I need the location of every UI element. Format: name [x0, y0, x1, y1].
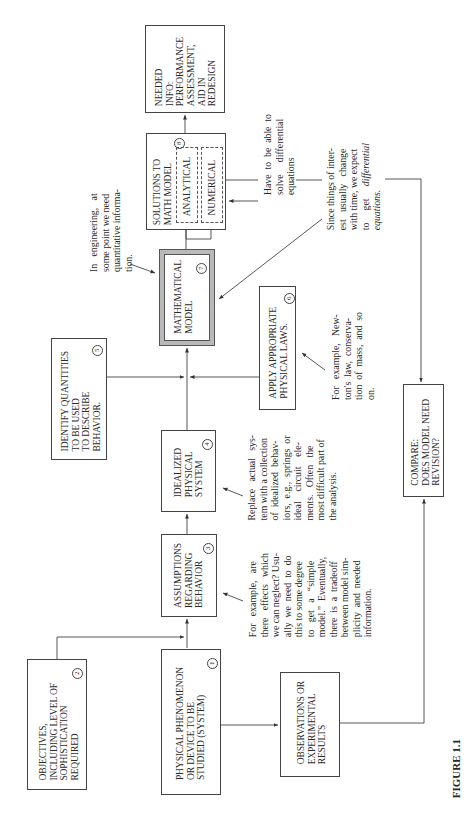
analytical-label: ANALYTICAL: [182, 157, 193, 216]
assumptions-box: ASSUMPTIONS REGARDING BEHAVIOR 3: [161, 534, 217, 617]
solutions-box: SOLUTIONS TO MATH MODEL 8 ANALYTICAL NUM…: [146, 133, 226, 230]
step-number-2: 2: [72, 668, 83, 679]
physical-laws-note: For example, New- ton's law, conserva- t…: [330, 312, 376, 400]
observations-box: OBSERVATIONS OR EXPERIMENTAL RESULTS: [280, 672, 340, 777]
assumptions-label: ASSUMPTIONS REGARDING BEHAVIOR: [173, 543, 205, 608]
change-with-time-note: Since things of inter- est usually chang…: [325, 143, 383, 230]
needed-info-box: NEEDED INFO: PERFORMANCE ASSESSMENT, AID…: [145, 25, 225, 113]
compare-label: COMPARE: DOES MODEL NEED REVISION?: [410, 399, 442, 486]
engineering-note: In engineering, at some point we need qu…: [88, 189, 134, 272]
solutions-label: SOLUTIONS TO MATH MODEL: [152, 159, 173, 225]
idealized-system-label: IDEALIZED PHYSICAL SYSTEM: [173, 448, 205, 497]
step-number-1: 1: [207, 658, 218, 669]
change-note-italic-differential: differential: [360, 143, 371, 186]
needed-info-label: NEEDED INFO: PERFORMANCE ASSESSMENT, AID…: [154, 37, 218, 106]
differential-equations-note: Have to be able to solve differential eq…: [262, 114, 297, 195]
physical-phenomenon-box: PHYSICAL PHENOMENON OR DEVICE TO BE STUD…: [161, 649, 221, 795]
physical-laws-box: APPLY APPROPRIATE PHYSICAL LAWS. 6: [259, 286, 296, 410]
assumptions-note: For example, are there effects which we …: [247, 553, 374, 637]
numerical-method-box: NUMERICAL: [201, 147, 223, 223]
figure-caption: FIGURE 1.1: [450, 739, 462, 798]
idealized-note: Replace actual sys- tem with a collectio…: [246, 435, 338, 520]
step-number-5: 5: [92, 345, 103, 356]
mathematical-model-box: MATHEMATICAL MODEL 7: [159, 249, 215, 346]
mathematical-model-inner: MATHEMATICAL MODEL 7: [164, 254, 210, 341]
physical-phenomenon-label: PHYSICAL PHENOMENON OR DEVICE TO BE STUD…: [175, 667, 207, 780]
change-note-italic-equations: equations.: [371, 189, 382, 230]
step-number-6: 6: [284, 293, 295, 304]
numerical-label: NUMERICAL: [207, 160, 218, 216]
step-number-3: 3: [203, 543, 214, 554]
compare-box: COMPARE: DOES MODEL NEED REVISION?: [403, 384, 444, 497]
step-number-4: 4: [202, 439, 213, 450]
observations-label: OBSERVATIONS OR EXPERIMENTAL RESULTS: [296, 681, 328, 764]
idealized-system-box: IDEALIZED PHYSICAL SYSTEM 4: [161, 430, 216, 512]
identify-quantities-box: IDENTIFY QUANTITIES TO BE USED TO DESCRI…: [51, 338, 107, 460]
identify-quantities-label: IDENTIFY QUANTITIES TO BE USED TO DESCRI…: [60, 351, 103, 451]
mathematical-model-label: MATHEMATICAL MODEL: [173, 260, 194, 334]
analytical-method-box: ANALYTICAL: [176, 147, 198, 223]
step-number-7: 7: [196, 263, 207, 274]
physical-laws-label: APPLY APPROPRIATE PHYSICAL LAWS.: [268, 307, 289, 399]
objectives-label: OBJECTIVES, INCLUDING LEVEL OF SOPHISTIC…: [38, 683, 81, 781]
objectives-box: OBJECTIVES, INCLUDING LEVEL OF SOPHISTIC…: [27, 659, 87, 790]
